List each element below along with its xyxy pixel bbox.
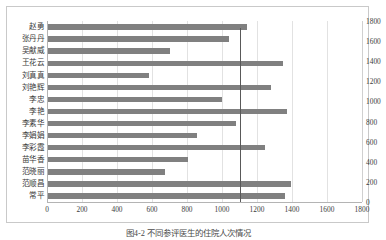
figure-caption: 图4-2 不同参评医生的住院人次情况 [0,226,377,240]
secondary-y-tick-label: 1400 [366,57,381,66]
bar[interactable] [47,36,229,41]
x-axis-line [47,202,362,203]
secondary-y-tick-label: 200 [366,177,377,186]
secondary-y-tick-label: 0 [366,198,370,207]
bar[interactable] [47,73,149,78]
category-label: 李忠 [9,95,45,104]
bar-row [47,154,362,166]
bar-row [47,190,362,202]
bar-row [47,21,362,33]
bar[interactable] [47,157,188,162]
chart-container: 赵勇张丹丹吴献威王花云刘真真刘艳辉李忠李艳李素华李娟娟李彩霞苗华香范晓丽范顺昌常… [6,6,369,223]
x-tick-label: 800 [181,205,192,214]
category-label: 刘真真 [9,71,45,80]
bar-row [47,69,362,81]
bar-row [47,142,362,154]
x-tick-label: 1400 [285,205,300,214]
x-tick-label: 600 [146,205,157,214]
category-label: 常平 [9,191,45,200]
category-label: 范晓丽 [9,167,45,176]
secondary-y-tick-label: 400 [366,157,377,166]
bar-row [47,166,362,178]
category-label: 李素华 [9,119,45,128]
bar[interactable] [47,109,287,114]
x-tick-label: 0 [45,205,49,214]
bar[interactable] [47,133,197,138]
secondary-y-tick-label: 1000 [366,97,381,106]
secondary-y-tick-label: 800 [366,117,377,126]
x-tick-label: 400 [111,205,122,214]
bar[interactable] [47,48,170,53]
secondary-y-tick-label: 1600 [366,37,381,46]
bar[interactable] [47,181,291,186]
bar-row [47,45,362,57]
category-label: 李娟娟 [9,131,45,140]
x-axis-ticks: 020040060080010001200140016001800 [47,205,362,219]
bar-row [47,57,362,69]
bar[interactable] [47,145,265,150]
secondary-y-tick-label: 1200 [366,77,381,86]
bar[interactable] [47,97,222,102]
secondary-y-axis-ticks: 020040060080010001200140016001800 [364,21,386,202]
category-axis: 赵勇张丹丹吴献威王花云刘真真刘艳辉李忠李艳李素华李娟娟李彩霞苗华香范晓丽范顺昌常… [7,21,45,202]
category-label: 范顺昌 [9,179,45,188]
secondary-y-tick-label: 1800 [366,17,381,26]
bar-row [47,33,362,45]
x-tick-label: 200 [76,205,87,214]
category-label: 张丹丹 [9,34,45,43]
reference-line [240,28,241,202]
category-label: 刘艳辉 [9,83,45,92]
bar[interactable] [47,121,236,126]
category-label: 李彩霞 [9,143,45,152]
bar-row [47,93,362,105]
x-tick-label: 1600 [320,205,335,214]
bar-row [47,118,362,130]
bar-row [47,178,362,190]
category-label: 李艳 [9,107,45,116]
bar[interactable] [47,193,285,198]
category-label: 王花云 [9,58,45,67]
x-tick-label: 1000 [215,205,230,214]
bar-row [47,81,362,93]
bar[interactable] [47,61,283,66]
category-label: 赵勇 [9,22,45,31]
bar-row [47,105,362,117]
bar[interactable] [47,169,165,174]
bar-row [47,130,362,142]
bar[interactable] [47,85,271,90]
secondary-y-axis-line [362,21,363,202]
category-label: 吴献威 [9,46,45,55]
bar[interactable] [47,24,247,29]
plot-area [47,21,362,202]
x-tick-label: 1200 [250,205,265,214]
y-axis-line [47,21,48,202]
secondary-y-tick-label: 600 [366,137,377,146]
category-label: 苗华香 [9,155,45,164]
